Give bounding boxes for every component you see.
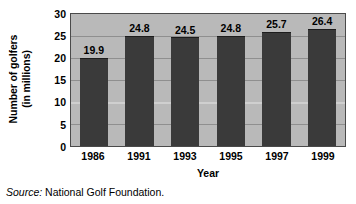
table-row <box>262 32 290 146</box>
y-tick-label: 0 <box>42 142 66 153</box>
bar-value-label: 26.4 <box>299 16 344 27</box>
bar-slot: 24.8 <box>208 14 253 146</box>
bar-series: 19.9 24.8 24.5 24.8 25.7 26.4 <box>71 14 345 146</box>
bar-slot: 19.9 <box>71 14 116 146</box>
table-row <box>308 29 336 146</box>
x-tick-label: 1995 <box>208 150 254 164</box>
bar-slot: 24.8 <box>117 14 162 146</box>
source-label: Source: <box>6 186 42 198</box>
y-tick-label: 20 <box>42 53 66 64</box>
x-tick-label: 1993 <box>162 150 208 164</box>
table-row <box>125 36 153 146</box>
x-tick-label: 1999 <box>300 150 346 164</box>
y-axis-title: Number of golfers (in millions) <box>7 11 41 147</box>
bar-value-label: 25.7 <box>254 19 299 30</box>
x-tick-label: 1997 <box>254 150 300 164</box>
x-axis-tick-labels: 1986 1991 1993 1995 1997 1999 <box>70 150 346 164</box>
bar-value-label: 24.8 <box>117 23 162 34</box>
bar-chart-figure: Number of golfers (in millions) 30 25 20… <box>0 0 356 204</box>
bar-slot: 24.5 <box>162 14 207 146</box>
x-tick-label: 1986 <box>70 150 116 164</box>
bar-slot: 25.7 <box>254 14 299 146</box>
y-tick-label: 25 <box>42 31 66 42</box>
y-axis-tick-labels: 30 25 20 15 10 5 0 <box>40 0 66 204</box>
table-row <box>80 58 108 147</box>
source-note: Source: National Golf Foundation. <box>6 186 164 199</box>
y-tick-label: 5 <box>42 120 66 131</box>
source-text: National Golf Foundation. <box>42 186 164 198</box>
y-tick-label: 15 <box>42 75 66 86</box>
table-row <box>217 36 245 146</box>
table-row <box>171 37 199 146</box>
y-tick-label: 10 <box>42 97 66 108</box>
plot-area: 19.9 24.8 24.5 24.8 25.7 26.4 <box>70 13 346 147</box>
bar-slot: 26.4 <box>299 14 344 146</box>
y-axis-title-line-2: (in millions) <box>20 11 33 147</box>
x-tick-label: 1991 <box>116 150 162 164</box>
x-axis-title: Year <box>70 167 346 179</box>
bar-value-label: 24.5 <box>162 25 207 36</box>
bar-value-label: 19.9 <box>71 45 116 56</box>
y-axis-title-line-1: Number of golfers <box>7 11 20 147</box>
y-tick-label: 30 <box>42 9 66 20</box>
bar-value-label: 24.8 <box>208 23 253 34</box>
